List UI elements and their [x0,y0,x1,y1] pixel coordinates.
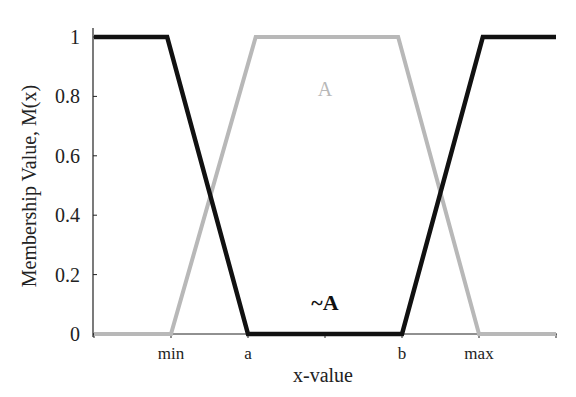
annotations: A~A [311,78,338,315]
y-tick-label: 0.8 [55,85,80,107]
x-tick-label: b [398,344,407,363]
fuzzy-membership-chart: 00.20.40.60.81 minabmax A~A x-value Memb… [0,0,576,397]
y-tick-label: 1 [70,26,80,48]
y-tick-label: 0.6 [55,145,80,167]
x-tick-label: min [158,344,185,363]
y-tick-label: 0.4 [55,204,80,226]
y-tick-label: 0 [70,323,80,345]
x-tick-label: max [464,344,494,363]
plot-area: 00.20.40.60.81 minabmax A~A x-value Memb… [18,26,557,386]
x-axis-label: x-value [293,364,353,386]
y-ticks: 00.20.40.60.81 [55,26,97,345]
x-ticks: minabmax [94,334,556,363]
x-tick-label: a [244,344,252,363]
y-axis-label: Membership Value, M(x) [18,85,41,287]
label-a: A [318,78,333,100]
label-not-a: ~A [311,290,338,315]
y-tick-label: 0.2 [55,264,80,286]
